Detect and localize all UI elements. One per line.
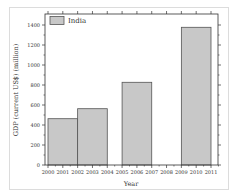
x-tick-label: 2010 (190, 169, 203, 175)
x-tick-label: 2000 (42, 169, 55, 175)
y-tick-label: 600 (30, 102, 40, 108)
x-tick-label: 2002 (71, 169, 84, 175)
y-tick-label: 0 (37, 162, 40, 168)
bar-2005-2007 (122, 82, 152, 165)
bar-2000-2002 (48, 119, 78, 165)
y-axis-title: GDP (current US$) (million) (12, 43, 20, 136)
bar-2002-2004 (78, 109, 108, 165)
y-tick-label: 1000 (27, 62, 40, 68)
y-tick-label: 200 (30, 142, 40, 148)
x-tick-label: 2003 (86, 169, 99, 175)
y-tick-label: 1400 (27, 22, 40, 28)
y-tick-label: 1200 (27, 42, 40, 48)
bar-2009-2011 (181, 27, 211, 165)
x-tick-label: 2009 (175, 169, 188, 175)
legend: India (50, 17, 86, 26)
legend-label: India (68, 17, 86, 25)
x-tick-label: 2005 (116, 169, 129, 175)
x-tick-label: 2004 (101, 169, 114, 175)
y-tick-label: 400 (30, 122, 40, 128)
x-tick-label: 2008 (160, 169, 173, 175)
legend-swatch (50, 17, 64, 25)
x-tick-label: 2007 (145, 169, 158, 175)
x-axis-title: Year (123, 180, 139, 188)
y-tick-label: 800 (30, 82, 40, 88)
bar-chart: 0200400600800100012001400200020012002200… (0, 0, 234, 196)
x-tick-label: 2011 (205, 169, 218, 175)
x-tick-label: 2001 (56, 169, 69, 175)
x-tick-label: 2006 (131, 169, 144, 175)
bar-series-india (48, 27, 211, 165)
